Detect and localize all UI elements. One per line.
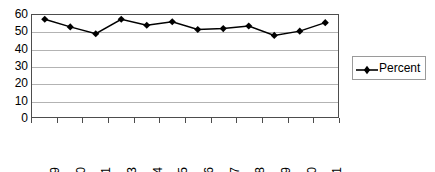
legend-label: Percent <box>379 62 420 74</box>
x-axis-tick-label: 2001 <box>100 167 112 172</box>
y-axis-tick-label: 30 <box>2 60 28 72</box>
x-axis-tick <box>339 118 340 123</box>
x-axis-tick-label: 2008 <box>254 167 266 172</box>
x-axis-tick-label: 2000 <box>75 167 87 172</box>
y-axis-tick-label: 40 <box>2 43 28 55</box>
plot-area <box>31 14 339 118</box>
x-axis-tick-label: 2005 <box>177 167 189 172</box>
x-axis-tick-label: 2007 <box>229 167 241 172</box>
data-point-marker <box>194 26 201 33</box>
x-axis: 1999200020012003200420052006200720082009… <box>31 123 339 169</box>
x-axis-tick-label: 2004 <box>152 167 164 172</box>
y-axis-tick-label: 60 <box>2 8 28 20</box>
data-point-marker <box>118 16 125 23</box>
data-point-marker <box>92 30 99 37</box>
data-point-marker <box>245 23 252 30</box>
y-axis-tick-label: 50 <box>2 25 28 37</box>
y-axis-tick-label: 10 <box>2 95 28 107</box>
data-point-marker <box>67 23 74 30</box>
data-point-marker <box>41 16 48 23</box>
line-chart: 6050403020100 19992000200120032004200520… <box>0 0 435 172</box>
data-point-marker <box>169 18 176 25</box>
y-axis-tick-label: 20 <box>2 77 28 89</box>
x-axis-tick-label: 2011 <box>331 167 343 172</box>
legend: Percent <box>352 56 426 80</box>
series-line <box>45 19 326 35</box>
data-point-marker <box>322 19 329 26</box>
data-point-marker <box>143 22 150 29</box>
x-axis-tick-label: 1999 <box>49 167 61 172</box>
x-axis-tick-label: 2006 <box>203 167 215 172</box>
y-axis: 6050403020100 <box>0 0 28 172</box>
data-point-marker <box>271 32 278 39</box>
data-point-marker <box>220 25 227 32</box>
series-percent <box>32 15 338 117</box>
data-point-marker <box>296 28 303 35</box>
diamond-marker-icon <box>356 62 378 74</box>
y-axis-tick-label: 0 <box>2 112 28 124</box>
x-axis-tick-label: 2010 <box>306 167 318 172</box>
x-axis-tick-label: 2009 <box>280 167 292 172</box>
x-axis-tick-label: 2003 <box>126 167 138 172</box>
